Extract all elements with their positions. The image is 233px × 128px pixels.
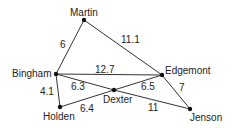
node-holden bbox=[58, 105, 62, 109]
node-dexter bbox=[112, 88, 116, 92]
weighted-graph-diagram: 611.112.76.3114.16.46.57 MartinBinghamEd… bbox=[0, 0, 233, 128]
node-edgemont bbox=[160, 73, 164, 77]
edge-edgemont-jenson bbox=[162, 75, 190, 109]
node-bingham bbox=[54, 72, 58, 76]
edge-weight-label: 6.5 bbox=[141, 81, 155, 92]
node-label-martin: Martin bbox=[70, 7, 98, 18]
node-label-bingham: Bingham bbox=[12, 68, 51, 79]
edge-weight-label: 6.4 bbox=[80, 103, 94, 114]
edge-weight-label: 6.3 bbox=[71, 81, 85, 92]
node-label-holden: Holden bbox=[43, 111, 75, 122]
node-label-edgemont: Edgemont bbox=[165, 65, 211, 76]
node-martin bbox=[82, 18, 86, 22]
edge-weight-label: 6 bbox=[60, 39, 66, 50]
edge-weight-label: 12.7 bbox=[95, 64, 115, 75]
edge-weight-label: 11.1 bbox=[121, 34, 140, 45]
edge-bingham-dexter bbox=[56, 74, 114, 90]
edge-weight-label: 7 bbox=[179, 82, 185, 93]
edge-weight-label: 11 bbox=[148, 102, 159, 113]
node-label-jenson: Jenson bbox=[190, 112, 222, 123]
nodes-layer: MartinBinghamEdgemontDexterHoldenJenson bbox=[12, 7, 222, 123]
node-label-dexter: Dexter bbox=[103, 94, 133, 105]
edge-weight-label: 4.1 bbox=[40, 86, 54, 97]
edge-bingham-holden bbox=[56, 74, 60, 107]
node-jenson bbox=[188, 107, 192, 111]
